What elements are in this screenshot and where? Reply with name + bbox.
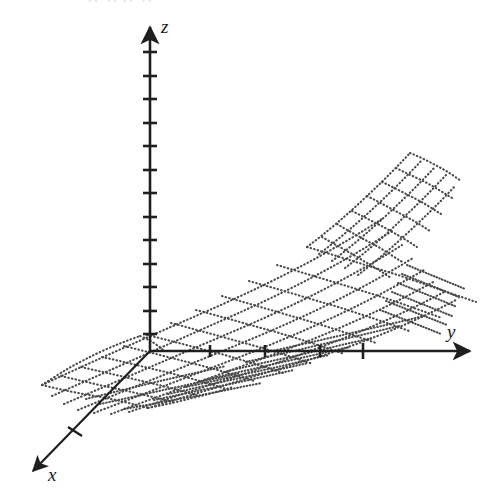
z-axis-label: z — [161, 17, 168, 36]
mesh-front-skirt — [42, 336, 233, 408]
z-axis — [143, 27, 157, 351]
mesh-lines-ridge — [307, 153, 456, 275]
figure-root: (1, 1), (1, 1) — [0, 0, 492, 502]
mesh-front-hatch — [86, 316, 424, 409]
y-axis-label: y — [447, 322, 455, 341]
surface-mesh — [42, 153, 476, 414]
x-axis-label: x — [48, 465, 56, 484]
mesh-lines-back-panel — [322, 153, 461, 278]
surface-plot-svg — [0, 0, 492, 502]
axes-group — [33, 27, 470, 471]
